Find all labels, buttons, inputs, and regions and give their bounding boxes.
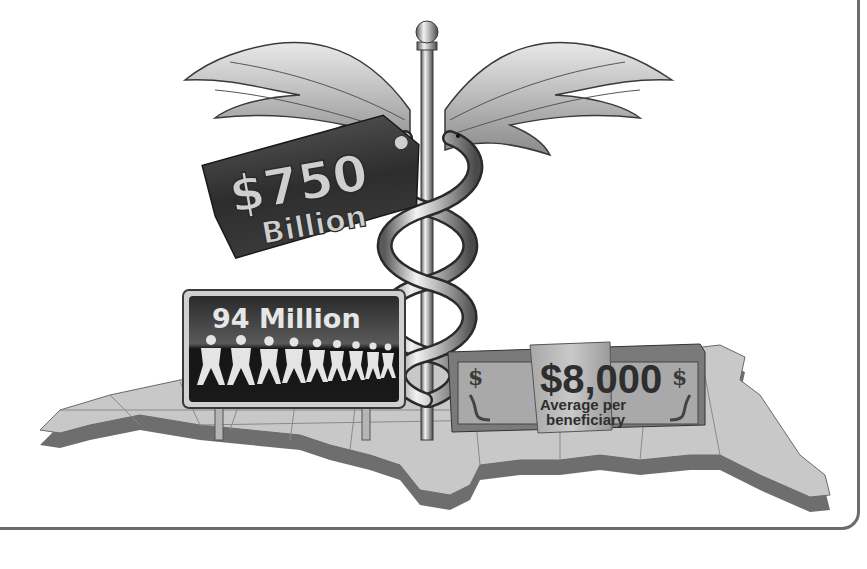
svg-text:$: $ xyxy=(672,364,687,390)
us-map xyxy=(40,345,830,512)
money-label-line2: beneficiary xyxy=(546,411,626,428)
svg-text:$: $ xyxy=(468,364,483,390)
billboard-title: 94 Million xyxy=(212,303,361,334)
money-stack: $ $ $8,000 Average per beneficiary xyxy=(448,342,705,433)
medicare-illustration: $750 Billion 94 Million $ $ xyxy=(0,0,867,569)
price-tag: $750 Billion xyxy=(199,110,433,261)
money-amount: $8,000 xyxy=(540,357,662,401)
